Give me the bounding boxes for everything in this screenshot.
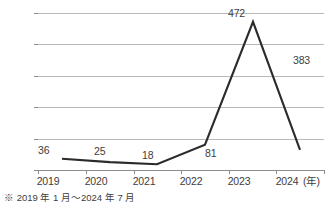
x-axis-label-2019: 2019: [22, 176, 74, 187]
x-axis-tick-start: [38, 170, 39, 174]
gridline-200: [38, 107, 324, 108]
x-axis-label-2023: 2023: [213, 176, 265, 187]
x-axis-label-2022: 2022: [165, 176, 217, 187]
x-axis-unit-label: (年): [303, 176, 320, 187]
x-axis-tick-2: [134, 170, 135, 174]
gridline-300: [38, 76, 324, 77]
x-axis-tick-1: [86, 170, 87, 174]
plot-area: [38, 13, 324, 170]
x-axis-label-2020: 2020: [70, 176, 122, 187]
x-axis-tick-4: [229, 170, 230, 174]
chart-footnote: ※ 2019 年 1 月～2024 年 7 月: [4, 193, 135, 203]
data-label-2020: 25: [94, 146, 105, 157]
x-axis-tick-5: [276, 170, 277, 174]
gridline-500: [38, 13, 324, 14]
x-axis-tick-3: [181, 170, 182, 174]
gridline-400: [38, 44, 324, 45]
data-label-2022: 81: [205, 148, 216, 159]
data-label-2019: 36: [38, 145, 49, 156]
x-axis-tick-end: [324, 170, 325, 174]
data-label-2021: 18: [142, 150, 153, 161]
x-axis-label-2021: 2021: [118, 176, 170, 187]
line-chart: 500 400 300 200 100 0 2019 2020 2021 202…: [0, 0, 336, 209]
data-label-2024: 383: [293, 55, 310, 66]
data-label-2023: 472: [228, 8, 245, 19]
gridline-100: [38, 139, 324, 140]
